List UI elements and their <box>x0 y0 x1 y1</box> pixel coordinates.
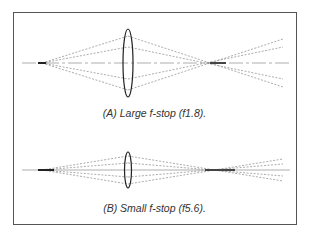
source-point-a <box>38 62 46 64</box>
panel-a-diagram <box>22 29 290 97</box>
source-point-b <box>38 169 54 171</box>
panel-b-diagram <box>22 152 290 188</box>
focus-point-a <box>210 62 226 64</box>
focus-point-b <box>205 169 235 171</box>
caption-b: (B) Small f-stop (f5.6). <box>0 202 309 214</box>
caption-a: (A) Large f-stop (f1.8). <box>0 107 309 119</box>
